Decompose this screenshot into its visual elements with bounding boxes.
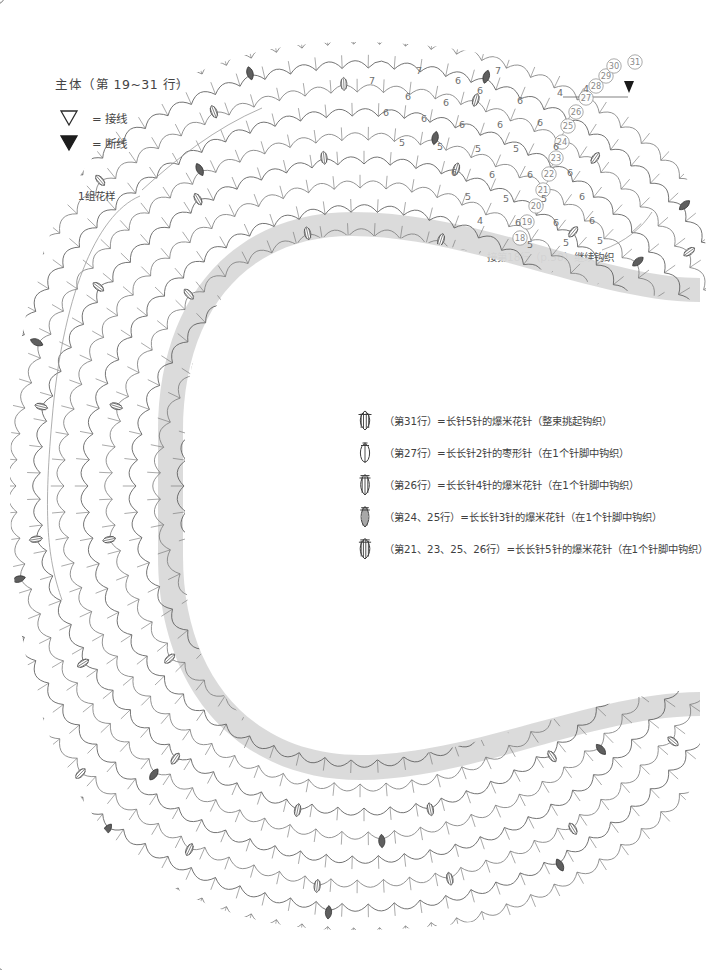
legend-text: （第26行）=长长针4针的爆米花针（在1个针脚中钩织）	[384, 477, 639, 492]
stitch-count: 5	[597, 235, 603, 246]
row-number-30: 30	[607, 59, 621, 73]
row-number-31: 31	[628, 55, 642, 69]
legend-row: （第26行）=长长针4针的爆米花针（在1个针脚中钩织）	[352, 468, 702, 500]
row-number-22: 22	[542, 167, 556, 181]
stitch-count: 5	[527, 239, 533, 250]
popcorn-4-trc-icon	[352, 471, 378, 497]
puff-2-trc-icon	[352, 439, 378, 465]
stitch-count: 6	[477, 85, 483, 96]
stitch-count: 7	[369, 75, 375, 86]
stitch-legend: （第31行）=长针5针的爆米花针（整束挑起钩织） （第27行）=长长针2针的枣形…	[352, 404, 702, 564]
svg-text:25: 25	[563, 121, 573, 131]
stitch-count: 4	[557, 87, 563, 98]
legend-row: （第21、23、25、26行）=长长针5针的爆米花针（在1个针脚中钩织）	[352, 532, 702, 564]
svg-text:20: 20	[531, 201, 541, 211]
stitch-count: 5	[475, 143, 481, 154]
row-number-26: 26	[569, 105, 583, 119]
stitch-count: 5	[563, 237, 569, 248]
stitch-count: 7	[416, 65, 422, 76]
popcorn-5-trc-icon	[352, 535, 378, 561]
legend-row: （第31行）=长针5针的爆米花针（整束挑起钩织）	[352, 404, 702, 436]
row-number-25: 25	[561, 119, 575, 133]
stitch-count: 5	[541, 193, 547, 204]
stitch-count: 6	[567, 167, 573, 178]
stitch-count: 6	[489, 169, 495, 180]
svg-text:29: 29	[601, 71, 611, 81]
svg-text:31: 31	[630, 57, 640, 67]
popcorn-5-dc-icon	[352, 407, 378, 433]
chart-cut-yarn-marker	[624, 81, 634, 93]
stitch-count: 7	[495, 65, 501, 76]
stitch-count: 6	[421, 113, 427, 124]
repeat-leader-line	[142, 108, 262, 190]
svg-text:23: 23	[551, 153, 561, 163]
crochet-chart-page: 主体（第 19~31 行） = 接线 = 断线 1组花样 接第18行（p.58）…	[0, 0, 711, 970]
stitch-count: 6	[553, 141, 559, 152]
stitch-count: 4	[477, 215, 483, 226]
legend-text: （第21、23、25、26行）=长长针5针的爆米花针（在1个针脚中钩织）	[384, 541, 708, 556]
row-number-19: 19	[520, 215, 534, 229]
stitch-count: 6	[455, 75, 461, 86]
stitch-count: 6	[443, 97, 449, 108]
stitch-count: 5	[437, 141, 443, 152]
stitch-count: 5	[465, 191, 471, 202]
row-number-18: 18	[513, 231, 527, 245]
stitch-count: 6	[537, 117, 543, 128]
row-number-23: 23	[549, 151, 563, 165]
legend-row: （第27行）=长长针2针的枣形针（在1个针脚中钩织）	[352, 436, 702, 468]
stitch-count: 6	[589, 215, 595, 226]
stitch-count: 6	[515, 217, 521, 228]
legend-text: （第27行）=长长针2针的枣形针（在1个针脚中钩织）	[384, 445, 629, 460]
stitch-count: 5	[513, 143, 519, 154]
legend-row: （第24、25行）=长长针3针的爆米花针（在1个针脚中钩织）	[352, 500, 702, 532]
stitch-count: 6	[383, 107, 389, 118]
legend-text: （第31行）=长针5针的爆米花针（整束挑起钩织）	[384, 413, 612, 428]
stitch-count: 6	[579, 191, 585, 202]
svg-text:19: 19	[522, 217, 532, 227]
stitch-count: 4	[583, 83, 589, 94]
stitch-count: 5	[399, 137, 405, 148]
stitch-count: 6	[527, 169, 533, 180]
stitch-count: 6	[497, 119, 503, 130]
svg-text:30: 30	[609, 61, 619, 71]
stitch-count: 6	[553, 217, 559, 228]
svg-text:18: 18	[515, 233, 525, 243]
stitch-count: 6	[405, 91, 411, 102]
stitch-count: 6	[459, 119, 465, 130]
svg-text:22: 22	[544, 169, 554, 179]
stitch-count: 6	[451, 167, 457, 178]
popcorn-3-trc-icon	[352, 503, 378, 529]
stitch-count: 6	[517, 95, 523, 106]
svg-text:27: 27	[581, 93, 591, 103]
svg-text:26: 26	[571, 107, 581, 117]
legend-text: （第24、25行）=长长针3针的爆米花针（在1个针脚中钩织）	[384, 509, 662, 524]
svg-text:28: 28	[591, 81, 601, 91]
stitch-count: 5	[503, 193, 509, 204]
